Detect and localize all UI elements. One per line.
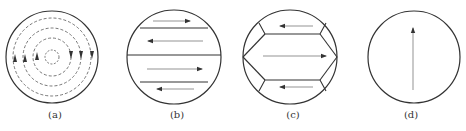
panel-label-b: (b)	[170, 109, 184, 120]
arrow-up-icon	[35, 52, 39, 60]
panel-label-c: (c)	[286, 109, 299, 120]
panel-a	[6, 11, 98, 103]
panel-b	[127, 10, 221, 104]
arrow-up-icon	[13, 54, 17, 62]
arrow-up-icon	[23, 54, 27, 62]
figure-canvas	[0, 0, 466, 131]
panel-label-d: (d)	[404, 109, 418, 120]
panel-d	[368, 11, 460, 103]
panel-label-a: (a)	[48, 109, 62, 120]
arrow-down-icon	[69, 51, 73, 59]
arrow-down-icon	[79, 51, 83, 59]
panel-c	[243, 10, 337, 104]
